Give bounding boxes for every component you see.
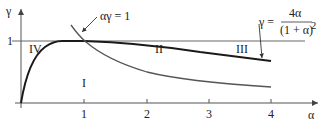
y-tick-1: 1 [7,34,13,48]
x-tick-4: 4 [268,107,274,121]
region-ii-label: II [155,42,163,56]
diagram-canvas: γ α 1 1 2 3 4 IV I II III αγ = 1 γ = 4α … [0,0,325,126]
x-axis-label: α [308,108,315,122]
hyperbola-pointer [82,17,97,32]
curve-label-exponent: 2 [311,20,316,31]
curve-label-lhs: γ = [258,15,274,29]
y-axis-label: γ [5,4,12,18]
x-tick-3: 3 [206,107,212,121]
region-iii-label: III [236,42,248,56]
curve-label-denominator: (1 + α) [280,23,313,37]
hyperbola-curve [71,25,271,87]
x-tick-2: 2 [144,107,150,121]
region-iv-label: IV [29,42,42,56]
hyperbola-label: αγ = 1 [100,9,130,23]
curve-label-numerator: 4α [289,6,302,20]
x-tick-1: 1 [81,107,87,121]
x-ticks [84,99,271,103]
region-i-label: I [82,76,86,90]
